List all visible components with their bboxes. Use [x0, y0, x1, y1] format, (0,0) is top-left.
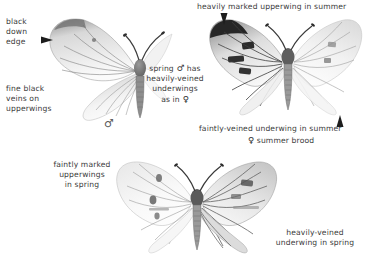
- label-spring-male-line1-a: spring: [149, 64, 174, 73]
- label-spring-male-line4-a: as in: [161, 95, 180, 104]
- label-heavily-veined-spring-line2: underwing in spring: [258, 238, 372, 248]
- label-spring-male-line1: spring ♂ has: [132, 63, 218, 74]
- summer-female-butterfly: [206, 12, 366, 124]
- label-heavily-marked-upperwing: heavily marked upperwing in summer: [197, 2, 346, 12]
- female-symbol-inline: ♀: [182, 94, 188, 104]
- label-faintly-marked-upperwings: faintly marked upperwings in spring: [30, 160, 134, 190]
- label-faintly-veined-underwing: faintly-veined underwing in summer: [199, 124, 342, 134]
- label-spring-male-line4: as in ♀: [132, 94, 218, 105]
- male-symbol-inline: ♂: [176, 63, 184, 73]
- male-symbol-caption: ♂: [104, 117, 114, 130]
- label-black-down-edge: black down edge: [6, 17, 27, 47]
- label-black-down-edge-line3: edge: [6, 37, 27, 47]
- female-symbol-brood: ♀: [248, 135, 254, 145]
- label-black-down-edge-line2: down: [6, 27, 27, 37]
- label-faintly-marked-line2: upperwings: [30, 170, 134, 180]
- label-heavily-veined-spring-line1: heavily-veined: [258, 228, 372, 238]
- label-spring-male-line2: heavily-veined: [132, 74, 218, 84]
- arrow-black-down-edge: [41, 30, 55, 40]
- label-faintly-marked-line3: in spring: [30, 180, 134, 190]
- label-fine-black-veins-line3: upperwings: [6, 104, 52, 114]
- label-faintly-marked-line1: faintly marked: [30, 160, 134, 170]
- label-spring-male-line3: underwings: [132, 84, 218, 94]
- label-fine-black-veins: fine black veins on upperwings: [6, 84, 52, 114]
- label-spring-male-note: spring ♂ has heavily-veined underwings a…: [132, 63, 218, 105]
- spring-brood-butterfly: [113, 158, 281, 258]
- label-summer-brood: ♀ summer brood: [216, 135, 346, 146]
- label-summer-brood-text: summer brood: [257, 136, 314, 145]
- arrow-heavily-marked-upperwing: [219, 11, 229, 24]
- illustration-plate: black down edge fine black veins on uppe…: [0, 0, 375, 262]
- label-fine-black-veins-line2: veins on: [6, 94, 52, 104]
- label-black-down-edge-line1: black: [6, 17, 27, 27]
- label-spring-male-line1-b: has: [187, 64, 201, 73]
- label-heavily-veined-underwing-spring: heavily-veined underwing in spring: [258, 228, 372, 248]
- label-fine-black-veins-line1: fine black: [6, 84, 52, 94]
